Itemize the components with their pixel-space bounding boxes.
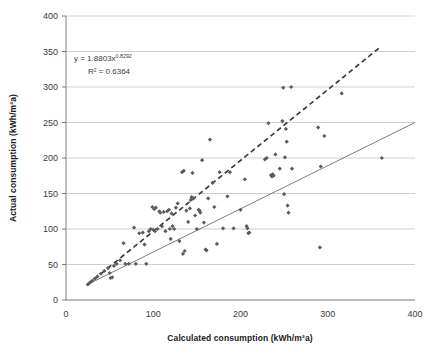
regression-equation-label: y = 1.8803x0.8292 bbox=[74, 53, 132, 63]
data-point bbox=[169, 237, 173, 241]
y-tick-label-200: 200 bbox=[43, 153, 58, 163]
data-point bbox=[186, 220, 190, 224]
data-point bbox=[162, 210, 166, 214]
data-point bbox=[163, 229, 167, 233]
x-tick-labels-group: 0100200300400 bbox=[63, 309, 422, 319]
data-point bbox=[121, 241, 125, 245]
x-tick-label-400: 400 bbox=[407, 309, 422, 319]
data-point bbox=[273, 152, 277, 156]
y-tick-marks-group: 050100150200250300350400 bbox=[43, 11, 66, 305]
data-point bbox=[318, 245, 322, 249]
y-tick-label-50: 50 bbox=[48, 260, 58, 270]
data-point bbox=[193, 213, 197, 217]
y-tick-label-250: 250 bbox=[43, 118, 58, 128]
data-point bbox=[225, 194, 229, 198]
data-point bbox=[284, 127, 288, 131]
data-point bbox=[208, 137, 212, 141]
data-point bbox=[188, 206, 192, 210]
data-point bbox=[266, 121, 270, 125]
data-point bbox=[212, 205, 216, 209]
data-point bbox=[231, 226, 235, 230]
data-point bbox=[290, 167, 294, 171]
y-tick-label-150: 150 bbox=[43, 189, 58, 199]
data-point bbox=[200, 158, 204, 162]
data-point bbox=[202, 221, 206, 225]
data-point bbox=[206, 196, 210, 200]
data-point bbox=[142, 243, 146, 247]
data-point bbox=[282, 192, 286, 196]
trendline-dashed bbox=[88, 47, 380, 284]
data-point bbox=[283, 155, 287, 159]
data-point bbox=[144, 262, 148, 266]
x-tick-label-200: 200 bbox=[233, 309, 248, 319]
x-tick-label-300: 300 bbox=[320, 309, 335, 319]
data-point bbox=[195, 227, 199, 231]
data-point bbox=[340, 91, 344, 95]
y-tick-label-0: 0 bbox=[53, 295, 58, 305]
data-point bbox=[278, 167, 282, 171]
x-tick-label-0: 0 bbox=[63, 309, 68, 319]
data-point bbox=[190, 171, 194, 175]
trendline-solid bbox=[88, 123, 415, 285]
y-tick-label-300: 300 bbox=[43, 82, 58, 92]
y-tick-label-350: 350 bbox=[43, 47, 58, 57]
data-point bbox=[137, 231, 141, 235]
y-tick-label-400: 400 bbox=[43, 11, 58, 21]
data-point bbox=[141, 230, 145, 234]
data-point bbox=[134, 262, 138, 266]
power-fit-dashed bbox=[88, 47, 380, 284]
chart-canvas: 050100150200250300350400 0100200300400 y… bbox=[0, 0, 439, 354]
data-point bbox=[286, 203, 290, 207]
data-point bbox=[380, 156, 384, 160]
data-point bbox=[215, 242, 219, 246]
data-point bbox=[221, 226, 225, 230]
scatter-chart: 050100150200250300350400 0100200300400 y… bbox=[0, 0, 439, 354]
data-point bbox=[184, 208, 188, 212]
y-tick-label-100: 100 bbox=[43, 224, 58, 234]
data-point bbox=[243, 177, 247, 181]
data-point bbox=[286, 211, 290, 215]
data-point bbox=[176, 201, 180, 205]
data-point bbox=[168, 227, 172, 231]
data-points-group bbox=[86, 85, 384, 287]
data-point bbox=[322, 134, 326, 138]
data-point bbox=[285, 140, 289, 144]
x-axis-title: Calculated consumption (kWh/m²a) bbox=[167, 333, 312, 343]
data-point bbox=[289, 85, 293, 89]
linear-fit-solid bbox=[88, 123, 415, 285]
data-point bbox=[217, 170, 221, 174]
x-tick-label-100: 100 bbox=[146, 309, 161, 319]
y-axis-title: Actual consumption (kWh/m²a) bbox=[8, 94, 18, 222]
data-point bbox=[174, 206, 178, 210]
data-point bbox=[118, 258, 122, 262]
r-squared-label: R² = 0.6364 bbox=[88, 67, 131, 76]
data-point bbox=[281, 86, 285, 90]
data-point bbox=[316, 125, 320, 129]
